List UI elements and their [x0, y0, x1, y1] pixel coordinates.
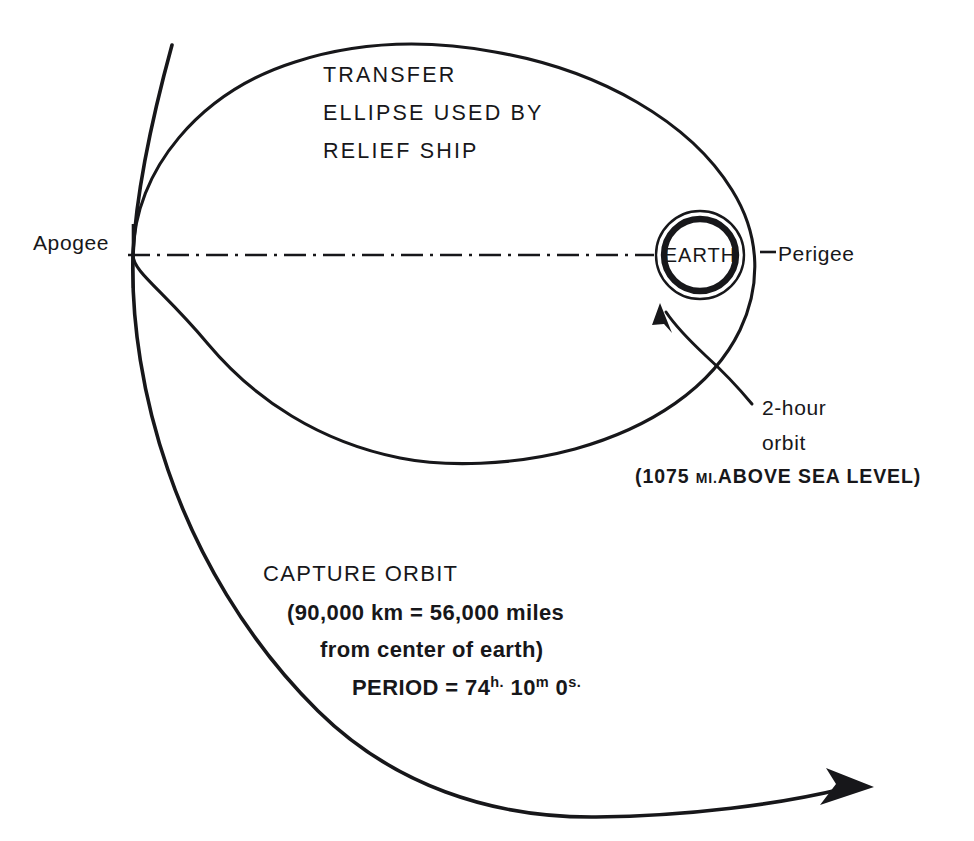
period-seconds-unit: s. — [568, 674, 581, 690]
altitude-unit: MI. — [696, 470, 718, 486]
capture-orbit-curve — [133, 45, 842, 817]
capture-orbit-line2: (90,000 km = 56,000 miles — [287, 600, 564, 625]
orbit-diagram: TRANSFER ELLIPSE USED BY RELIEF SHIP Apo… — [0, 0, 974, 841]
two-hour-orbit-label-line2: orbit — [762, 431, 806, 454]
capture-orbit-period: PERIOD = 74h. 10m 0s. — [352, 674, 581, 700]
altitude-rest: ABOVE SEA LEVEL) — [718, 465, 921, 487]
altitude-open: (1075 — [635, 465, 696, 487]
period-seconds-value: 0 — [549, 675, 568, 700]
period-hours-unit: h. — [490, 674, 504, 690]
two-hour-orbit-altitude: (1075 MI.ABOVE SEA LEVEL) — [635, 465, 921, 487]
period-minutes-unit: m — [536, 674, 549, 690]
transfer-label-line1: TRANSFER — [323, 63, 456, 87]
transfer-label-line3: RELIEF SHIP — [323, 139, 479, 163]
capture-orbit-arrowhead — [820, 768, 874, 805]
two-hour-orbit-label-line1: 2-hour — [762, 396, 826, 419]
period-prefix: PERIOD = 74 — [352, 675, 491, 700]
perigee-label: Perigee — [778, 242, 855, 265]
period-minutes-value: 10 — [504, 675, 536, 700]
two-hour-orbit-leader — [666, 312, 752, 404]
capture-orbit-title: CAPTURE ORBIT — [263, 561, 458, 586]
figure-canvas: TRANSFER ELLIPSE USED BY RELIEF SHIP Apo… — [0, 0, 974, 841]
transfer-label-line2: ELLIPSE USED BY — [323, 101, 544, 125]
earth-label: EARTH — [664, 244, 736, 266]
apogee-label: Apogee — [33, 231, 109, 254]
capture-orbit-line3: from center of earth) — [320, 637, 544, 662]
